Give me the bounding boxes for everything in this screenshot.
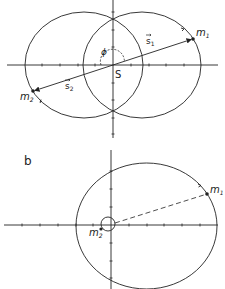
label-m2-a: m2 (20, 91, 34, 103)
two-body-orbit-diagram: m1 m2 s1 s2 ϕ S b (0, 0, 225, 289)
orbit-m2-b (101, 217, 115, 231)
mass-m2-b (99, 227, 102, 230)
vector-s2 (35, 65, 113, 91)
mass-m1-a (191, 37, 195, 41)
mass-m2-a (31, 89, 35, 93)
figure-b (4, 150, 218, 289)
label-m1-b: m1 (210, 184, 224, 196)
label-s2: s2 (65, 81, 74, 92)
figure-a (7, 0, 218, 138)
panel-label-b: b (24, 154, 32, 168)
label-s1: s1 (146, 36, 155, 47)
label-center-s: S (115, 69, 121, 80)
label-phi: ϕ (101, 47, 107, 57)
direction-arrow-m1 (181, 28, 184, 31)
orbit-m1-b (76, 163, 217, 289)
direction-arrow-m1-b (198, 184, 201, 187)
separation-line-b (115, 194, 207, 223)
mass-m1-b (205, 192, 209, 196)
label-m1-a: m1 (196, 27, 210, 39)
